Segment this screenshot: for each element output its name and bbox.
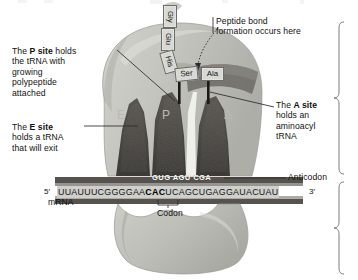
amino-acid-glu: Glu — [161, 28, 175, 51]
codon-label: Codon — [157, 208, 183, 218]
callout-p-site: The P site holds the tRNA with growing p… — [12, 46, 116, 98]
three-prime-label: 3′ — [309, 187, 315, 197]
mrna-sequence-left: UUAUUUCGGGGAA — [58, 187, 145, 197]
bracket-small-subunit — [334, 182, 344, 274]
mrna-sequence-right: UCAGCUGAGGAUACUAU — [165, 187, 278, 197]
callout-e-site: The E site holds a tRNA that will exit — [12, 122, 112, 153]
bracket-large-subunit — [334, 22, 344, 174]
amino-acid-ala: Ala — [201, 67, 224, 81]
callout-p-site-pre: The — [12, 46, 30, 56]
mrna-label: mRNA — [48, 197, 74, 207]
mrna-sequence: UUAUUUCGGGGAACACUCAGCUGAGGAUACUAU — [57, 186, 279, 198]
site-letter-e: E — [117, 108, 125, 122]
callout-p-site-term: P site — [30, 46, 53, 56]
anticodon-sequence: GUG AGU CGA — [152, 173, 211, 182]
subunit-brackets — [334, 22, 344, 274]
five-prime-label: 5′ — [44, 187, 50, 197]
top-edge-artifacts — [18, 0, 304, 4]
callout-e-site-pre: The — [12, 122, 30, 132]
callout-a-site-post: holds an aminoacyl tRNA — [276, 110, 315, 141]
callout-e-site-term: E site — [30, 122, 53, 132]
callout-a-site: The A site holds an aminoacyl tRNA — [276, 100, 352, 142]
site-letter-p: P — [162, 108, 170, 122]
callout-anticodon: Anticodon — [288, 172, 327, 182]
callout-peptide-bond: Peptide bond formation occurs here — [216, 16, 324, 37]
figure-canvas: E P A Gly Glu His Ser Ala GUG AGU CGA 5′… — [0, 0, 358, 280]
mrna-codon-highlight: CAC — [145, 187, 165, 197]
callout-a-site-term: A site — [294, 100, 318, 110]
callout-e-site-post: holds a tRNA that will exit — [12, 132, 64, 152]
site-letter-a: A — [224, 108, 232, 122]
amino-acid-gly: Gly — [163, 5, 177, 28]
amino-acid-ser: Ser — [174, 66, 198, 82]
callout-a-site-pre: The — [276, 100, 294, 110]
